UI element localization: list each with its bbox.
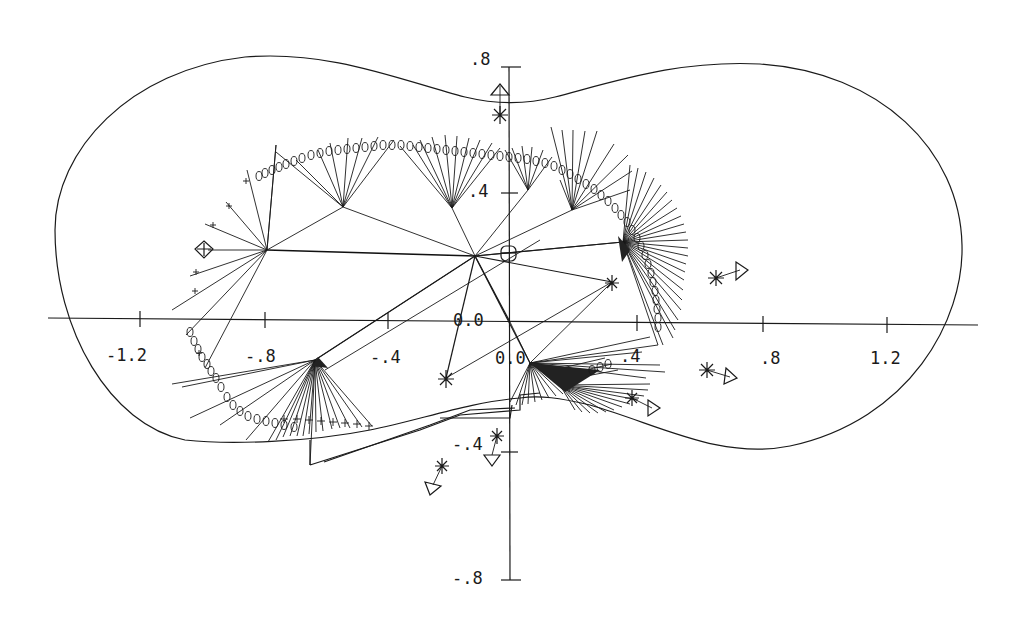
star-icon [605,275,619,291]
star-icon [438,370,454,388]
triangle-icon [484,455,500,466]
triangle-icon [648,400,660,416]
axes [48,67,978,580]
y-tick-label: -.4 [452,434,483,454]
triangle-icon [425,482,441,495]
fan-hub-2 [267,137,475,256]
plot-canvas: -1.2 -.8 -.4 0.0 .4 .8 1.2 0.0 .8 .4 -.4… [0,0,1024,626]
o-marker-chain-top [256,141,661,332]
x-tick-label: .8 [760,348,780,368]
x-tick-label: -.8 [245,346,276,366]
star-markers [435,106,724,474]
x-tick-label: 0.0 [495,348,526,368]
arrow-connectors [433,86,740,485]
x-tick-label: -1.2 [106,345,147,365]
fan-hub-5 [475,146,552,256]
y-tick-label: -.8 [452,568,483,588]
fan-hub-1 [172,145,475,368]
diamond-marker [195,241,213,258]
fan-hub-6 [475,127,632,256]
tick-labels: -1.2 -.8 -.4 0.0 .4 .8 1.2 0.0 .8 .4 -.4… [106,49,901,588]
x-tick-label: 1.2 [870,348,901,368]
x-axis [48,318,978,325]
y-tick-label: .8 [470,49,490,69]
o-marker-chain-left [187,328,297,432]
lower-band [310,393,540,465]
x-tick-label: -.4 [370,347,401,367]
